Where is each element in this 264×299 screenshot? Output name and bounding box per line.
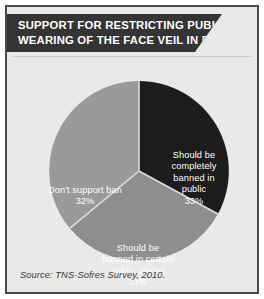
chart-plot-area: Should be completely banned in public 33…	[13, 56, 251, 263]
pie-label-dont-support-ban: Don't support ban 32%	[37, 185, 133, 208]
pie-label-line: Don't support ban	[48, 185, 122, 195]
pie-label-line: banned in	[173, 173, 214, 183]
pie-label-line: public	[182, 184, 207, 194]
chart-title-line-2: WEARING OF THE FACE VEIL IN FRANCE	[18, 33, 222, 48]
pie-label-line: banned in certain	[102, 254, 174, 264]
pie-value-dont-support-ban: 32%	[37, 196, 133, 207]
pie-label-line: completely	[172, 161, 217, 171]
source-note: Source: TNS-Sofres Survey, 2010.	[20, 269, 165, 280]
chart-figure: SUPPORT FOR RESTRICTING PUBLIC WEARING O…	[5, 5, 259, 294]
chart-title-banner: SUPPORT FOR RESTRICTING PUBLIC WEARING O…	[7, 14, 222, 52]
pie-value-banned-in-public: 33%	[152, 196, 236, 207]
pie-label-certain-public-places: Should be banned in certain public place…	[75, 243, 201, 289]
pie-label-line: Should be	[117, 243, 159, 253]
pie-label-line: Should be	[173, 150, 215, 160]
pie-label-banned-in-public: Should be completely banned in public 33…	[152, 150, 236, 207]
pie-chart: Should be completely banned in public 33…	[13, 57, 251, 263]
chart-title-line-1: SUPPORT FOR RESTRICTING PUBLIC	[18, 18, 222, 33]
